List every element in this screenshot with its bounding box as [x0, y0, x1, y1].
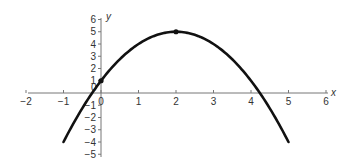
x-tick-label: 4 — [248, 96, 254, 107]
y-tick-label: 2 — [90, 63, 96, 74]
x-tick-label: 2 — [173, 96, 179, 107]
x-tick-label: 3 — [211, 96, 217, 107]
x-tick-label: −1 — [58, 96, 70, 107]
parabola-curve — [64, 32, 289, 142]
y-tick-label: 4 — [90, 39, 96, 50]
y-tick-label: 5 — [90, 26, 96, 37]
marked-points — [98, 29, 178, 83]
y-tick-label: −4 — [85, 137, 97, 148]
y-tick-label: −3 — [85, 124, 97, 135]
marked-point — [173, 29, 178, 34]
y-axis-label: y — [105, 11, 112, 22]
x-axis-label: x — [330, 87, 337, 98]
x-tick-label: 6 — [323, 96, 329, 107]
marked-point — [98, 78, 103, 83]
x-tick-label: −2 — [20, 96, 32, 107]
axes — [28, 18, 328, 157]
y-tick-label: 6 — [90, 14, 96, 25]
y-tick-label: 3 — [90, 51, 96, 62]
y-tick-label: −2 — [85, 112, 97, 123]
y-tick-label: −5 — [85, 149, 97, 160]
x-tick-label: 5 — [286, 96, 292, 107]
parabola-chart: −2−11234560 −5−4−3−2−1123456 x y 0 — [0, 0, 354, 167]
x-tick-label: 1 — [136, 96, 142, 107]
